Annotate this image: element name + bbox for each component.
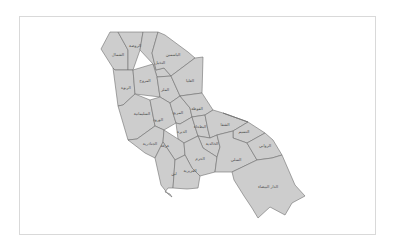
label-d8: العليا — [186, 78, 194, 83]
label-d4: الياسمين — [166, 52, 181, 57]
label-d5: الربوة — [121, 85, 131, 90]
label-d9: السليمانية — [134, 111, 150, 116]
label-d16: النسيم — [239, 129, 250, 134]
label-d6: المروج — [139, 78, 150, 83]
label-d24: العزيزية — [183, 168, 196, 173]
label-d10: الورود — [153, 117, 163, 122]
label-d3: النخيل — [155, 60, 165, 65]
district-map[interactable]: الشمال الروضة النخيل الياسمين الربوة الم… — [0, 0, 394, 249]
label-d2: الروضة — [129, 43, 141, 48]
label-d17: الجنادرية — [143, 141, 157, 146]
label-d14: البطحاء — [194, 124, 207, 129]
label-d22: الروابي — [259, 143, 271, 148]
label-d25: الدار البيضاء — [258, 184, 278, 189]
label-d15: الشفا — [220, 122, 229, 127]
label-d18: عرقة — [161, 143, 170, 148]
label-d7: الملز — [160, 87, 169, 92]
label-d20: الحزم — [195, 156, 205, 161]
label-d23: لبن — [171, 171, 176, 176]
label-d12: الفوطة — [191, 106, 203, 111]
label-d13: الديرة — [177, 129, 187, 134]
label-d19: الخالدية — [206, 141, 219, 146]
label-d11: المربع — [173, 110, 183, 115]
label-d21: السلي — [231, 157, 242, 162]
label-d1: الشمال — [112, 52, 124, 57]
